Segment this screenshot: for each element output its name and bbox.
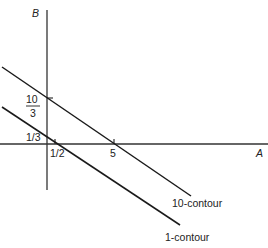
tick-label-b-ten-thirds-den: 3 <box>30 107 36 119</box>
contour-diagram: B A 1/2 5 1/3 10 3 10-contour 1-contour <box>0 0 268 248</box>
a-axis-label: A <box>255 147 263 159</box>
contour-line-1 <box>2 107 180 225</box>
contour-label-1: 1-contour <box>165 231 210 243</box>
tick-label-b-third: 1/3 <box>26 131 41 143</box>
tick-label-b-ten-thirds-num: 10 <box>26 93 38 105</box>
tick-label-a-five: 5 <box>110 147 116 159</box>
tick-label-a-half: 1/2 <box>50 147 65 159</box>
b-axis-label: B <box>32 7 39 19</box>
contour-label-10: 10-contour <box>172 197 223 209</box>
